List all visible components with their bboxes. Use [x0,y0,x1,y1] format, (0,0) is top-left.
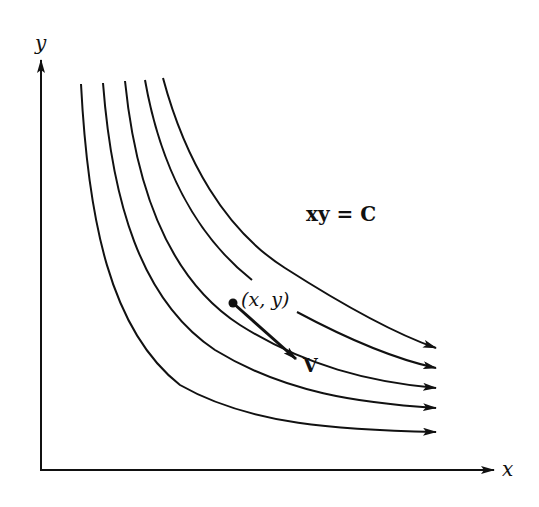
equation-label: xy = C [306,202,376,226]
point-label: (x, y) [241,288,289,310]
streamline-4-upper [145,80,252,280]
streamlines [81,78,436,432]
axes: y x [34,31,513,481]
vector-label: V [302,354,319,376]
x-axis-label: x [502,457,513,481]
streamline-3 [125,81,436,388]
velocity-vector [233,303,296,359]
y-axis-label: y [34,31,47,55]
hyperbola-diagram: y x (x, y) V xy = C [0,0,539,507]
streamline-5 [163,78,436,348]
point-and-vector: (x, y) V [229,288,320,376]
